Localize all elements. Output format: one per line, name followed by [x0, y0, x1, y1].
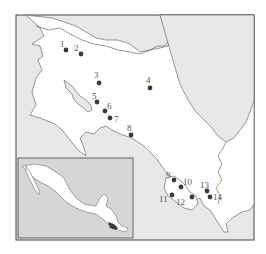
svg-text:2: 2 [74, 43, 79, 53]
site-9[interactable] [172, 178, 177, 183]
site-4[interactable] [148, 86, 153, 91]
svg-text:8: 8 [127, 123, 132, 133]
svg-text:4: 4 [146, 75, 151, 85]
svg-text:13: 13 [200, 180, 210, 190]
inset-locator-map [18, 158, 133, 238]
svg-text:6: 6 [107, 101, 112, 111]
svg-text:9: 9 [166, 170, 171, 180]
svg-text:12: 12 [176, 197, 185, 207]
site-12[interactable] [190, 195, 195, 200]
site-14[interactable] [208, 195, 213, 200]
map-canvas: 1 2 3 4 5 6 7 8 9 10 11 12 13 14 [0, 0, 266, 254]
svg-text:5: 5 [92, 91, 97, 101]
svg-text:10: 10 [183, 177, 193, 187]
svg-text:3: 3 [94, 70, 99, 80]
site-8[interactable] [129, 133, 134, 138]
svg-text:11: 11 [159, 194, 168, 204]
svg-text:7: 7 [114, 114, 119, 124]
svg-text:1: 1 [60, 39, 65, 49]
site-3[interactable] [97, 81, 102, 86]
site-7[interactable] [108, 116, 113, 121]
site-2[interactable] [79, 52, 84, 57]
svg-text:14: 14 [213, 192, 223, 202]
site-11[interactable] [170, 193, 175, 198]
